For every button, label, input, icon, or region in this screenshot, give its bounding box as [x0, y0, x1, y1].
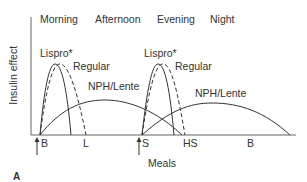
- meal-lunch: L: [83, 138, 89, 149]
- x-axis-title: Meals: [148, 158, 176, 169]
- label-lispro-evening: Lispro*: [144, 48, 177, 59]
- period-morning: Morning: [40, 14, 78, 25]
- period-evening: Evening: [157, 14, 195, 25]
- lispro-morning-curve: [40, 64, 71, 135]
- meal-bedtime: HS: [183, 138, 198, 149]
- panel-label: A: [13, 172, 20, 182]
- nph-morning-curve: [40, 100, 182, 135]
- meal-breakfast: B: [41, 138, 48, 149]
- insulin-curves-diagram: [0, 0, 307, 182]
- regular-morning-curve: [40, 64, 86, 135]
- arrow-up-icon: [137, 137, 142, 155]
- arrow-up-icon: [35, 137, 40, 155]
- meal-breakfast-next: B: [247, 138, 254, 149]
- label-regular-morning: Regular: [73, 61, 110, 72]
- nph-evening-curve: [142, 103, 290, 135]
- label-nph-morning: NPH/Lente: [88, 81, 139, 92]
- y-axis-title: Insulin effect: [8, 46, 19, 105]
- period-night: Night: [210, 14, 235, 25]
- period-afternoon: Afternoon: [95, 14, 141, 25]
- label-lispro-morning: Lispro*: [40, 48, 73, 59]
- regular-evening-curve: [142, 64, 185, 135]
- meal-supper: S: [142, 138, 149, 149]
- label-nph-evening: NPH/Lente: [195, 88, 246, 99]
- label-regular-evening: Regular: [175, 61, 212, 72]
